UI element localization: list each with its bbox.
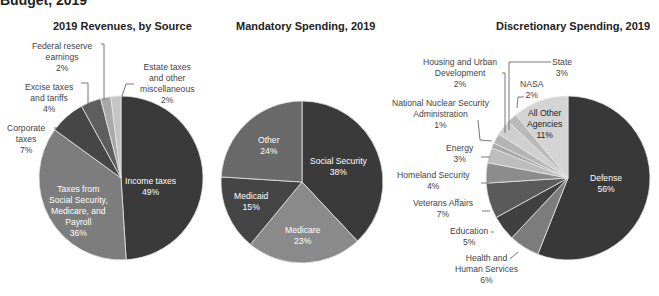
- label-social-security-taxes: Taxes fromSocial Security,Medicare, andP…: [49, 184, 108, 239]
- label-social-security: Social Security38%: [310, 156, 367, 178]
- label-health-human-services: Health andHuman Services6%: [455, 253, 518, 286]
- label-federal-reserve: Federal reserveearnings2%: [32, 41, 92, 74]
- label-veterans-affairs: Veterans Affairs7%: [413, 198, 473, 220]
- label-housing-urban-development: Housing and UrbanDevelopment2%: [423, 57, 497, 90]
- label-education: Education5%: [450, 226, 488, 248]
- label-nnsa: National Nuclear SecurityAdministration1…: [392, 98, 489, 131]
- label-nasa: NASA2%: [520, 79, 543, 101]
- label-income-taxes: Income taxes49%: [125, 176, 176, 198]
- label-all-other-agencies: All OtherAgencies11%: [527, 108, 562, 141]
- pie-charts-canvas: [0, 0, 659, 296]
- label-energy: Energy3%: [446, 143, 473, 165]
- label-homeland-security: Homeland Security4%: [397, 170, 470, 192]
- label-corporate-taxes: Corporatetaxes7%: [7, 123, 45, 156]
- label-medicaid: Medicaid15%: [234, 191, 268, 213]
- label-medicare: Medicare23%: [285, 225, 320, 247]
- label-defense: Defense56%: [590, 173, 622, 195]
- label-other: Other24%: [258, 135, 280, 157]
- label-excise-taxes: Excise taxesand tariffs4%: [25, 82, 73, 115]
- discretionary-pie: [486, 96, 650, 260]
- label-estate-taxes: Estate taxesand othermiscellaneous2%: [140, 62, 194, 106]
- label-state: State3%: [552, 57, 572, 79]
